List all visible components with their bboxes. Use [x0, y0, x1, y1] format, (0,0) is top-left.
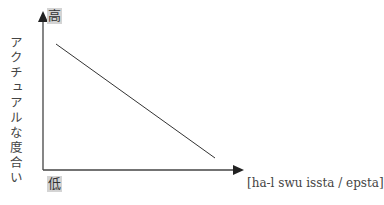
x-axis-arrowhead-icon — [233, 165, 244, 175]
y-axis-low-label: 低 — [47, 176, 62, 192]
y-axis-title: アクチュアルな度合い — [6, 36, 22, 186]
x-axis-title: [ha-l swu issta / epsta] — [247, 176, 384, 190]
trend-line — [56, 44, 215, 158]
y-axis-high-label: 高 — [47, 8, 62, 24]
